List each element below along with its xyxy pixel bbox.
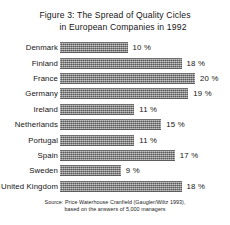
chart-title-line-2: in European Companies in 1992 [0, 21, 230, 33]
bar-track: 18 % [60, 179, 230, 194]
bar-category-label: United Kingdom [0, 182, 60, 191]
bar-value-label: 15 % [161, 120, 185, 129]
bar-category-label: Denmark [0, 43, 60, 52]
bar-category-label: Germany [0, 89, 60, 98]
chart-title: Figure 3: The Spread of Quality Cicles i… [0, 0, 230, 33]
source-note: Source: Price Waterhouse Cranfield (Gaug… [0, 199, 230, 213]
source-note-line-1: Source: Price Waterhouse Cranfield (Gaug… [0, 199, 230, 206]
bar-track: 9 % [60, 163, 230, 178]
bar-chart-plot-area: Denmark10 %Finland18 %France20 %Germany1… [0, 40, 230, 194]
figure-chart: Figure 3: The Spread of Quality Cicles i… [0, 0, 230, 225]
bar-category-label: Netherlands [0, 120, 60, 129]
bar-category-label: Portugal [0, 136, 60, 145]
bar-france [60, 73, 195, 84]
bar-category-label: France [0, 74, 60, 83]
bar-united-kingdom [60, 181, 182, 192]
bar-value-label: 17 % [175, 151, 199, 160]
bar-germany [60, 88, 188, 99]
bar-row: Sweden9 % [0, 163, 230, 178]
bar-value-label: 10 % [128, 43, 152, 52]
bar-value-label: 11 % [134, 105, 157, 114]
bar-row: United Kingdom18 % [0, 179, 230, 194]
bar-ireland [60, 104, 134, 115]
bar-row: Ireland11 % [0, 102, 230, 117]
bar-row: Portugal11 % [0, 132, 230, 147]
bar-value-label: 9 % [121, 166, 140, 175]
bar-track: 18 % [60, 55, 230, 70]
bar-value-label: 19 % [188, 89, 212, 98]
bar-category-label: Ireland [0, 105, 60, 114]
bar-row: France20 % [0, 71, 230, 86]
bar-finland [60, 58, 182, 69]
bar-category-label: Finland [0, 59, 60, 68]
bar-category-label: Sweden [0, 166, 60, 175]
bar-value-label: 18 % [182, 182, 206, 191]
bar-track: 17 % [60, 148, 230, 163]
bar-track: 11 % [60, 132, 230, 147]
bar-spain [60, 150, 175, 161]
bar-track: 15 % [60, 117, 230, 132]
bar-value-label: 11 % [134, 136, 157, 145]
bar-sweden [60, 165, 121, 176]
bar-value-label: 20 % [195, 74, 219, 83]
bar-row: Finland18 % [0, 55, 230, 70]
bar-row: Spain17 % [0, 148, 230, 163]
bar-track: 19 % [60, 86, 230, 101]
bar-row: Germany19 % [0, 86, 230, 101]
bar-netherlands [60, 119, 161, 130]
bar-row: Netherlands15 % [0, 117, 230, 132]
bar-denmark [60, 42, 128, 53]
bar-category-label: Spain [0, 151, 60, 160]
source-note-line-2: based on the answers of 5,000 managers [0, 206, 230, 213]
chart-title-line-1: Figure 3: The Spread of Quality Cicles [0, 9, 230, 21]
bar-track: 11 % [60, 102, 230, 117]
bar-portugal [60, 135, 134, 146]
bar-value-label: 18 % [182, 59, 206, 68]
bar-track: 10 % [60, 40, 230, 55]
bar-row: Denmark10 % [0, 40, 230, 55]
bar-track: 20 % [60, 71, 230, 86]
